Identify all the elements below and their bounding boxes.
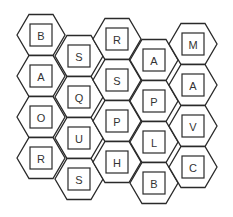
cell-letter: O	[37, 112, 46, 124]
cell-letter: P	[150, 96, 157, 108]
cell-letter: C	[189, 162, 197, 174]
cell-letter: A	[150, 55, 158, 67]
cell-letter: S	[113, 75, 120, 87]
hex-cell: B	[17, 15, 65, 56]
cell-letter: P	[113, 116, 120, 128]
cell-letter: B	[37, 30, 44, 42]
cell-letter: A	[189, 80, 197, 92]
cell-letter: S	[75, 51, 82, 63]
cell-letter: R	[113, 34, 121, 46]
cell-letter: V	[189, 121, 197, 133]
cell-letter: U	[75, 133, 83, 145]
cell-letter: R	[37, 153, 45, 165]
cell-letter: M	[188, 39, 197, 51]
cell-letter: B	[150, 178, 157, 190]
cell-letter: Q	[75, 92, 84, 104]
cell-letter: A	[37, 71, 45, 83]
cell-letter: S	[75, 174, 82, 186]
hex-letter-grid: BAORSQUSRSPHAPLBMAVC	[0, 0, 233, 217]
cell-letter: H	[113, 157, 121, 169]
cell-letter: L	[151, 137, 157, 149]
